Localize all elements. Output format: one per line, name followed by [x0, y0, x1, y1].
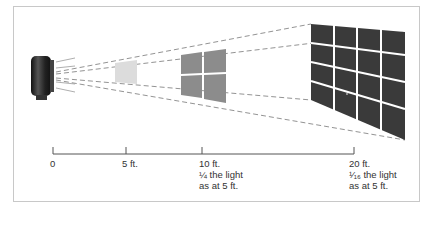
tick-label-5ft: 5 ft. — [122, 158, 138, 169]
panel-10ft — [181, 49, 226, 103]
note-20ft-line1: ¹⁄₁₆ the light — [349, 169, 397, 180]
distance-axis — [53, 147, 354, 154]
note-20ft-line2: as at 5 ft. — [349, 180, 388, 191]
note-10ft-line1: ¼ the light — [199, 169, 243, 180]
note-10ft-line2: as at 5 ft. — [199, 180, 238, 191]
panel-5ft — [115, 60, 137, 84]
tick-label-10ft: 10 ft. — [199, 158, 220, 169]
flash-unit-icon — [31, 56, 54, 100]
tick-label-0: 0 — [50, 158, 55, 169]
tick-label-20ft: 20 ft. — [349, 158, 370, 169]
light-rays — [56, 58, 75, 92]
